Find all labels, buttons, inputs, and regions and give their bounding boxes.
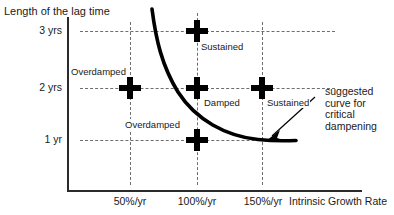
- x-axis-line: [67, 190, 362, 192]
- marker-sustained-2yr-150: [251, 77, 273, 99]
- x-tick-label-150: 150%/yr: [232, 195, 294, 207]
- marker-label-sustained-2yr-150: Sustained: [266, 97, 310, 108]
- gridline-v-50: [130, 22, 131, 185]
- curve-annotation-line-4: dampening: [325, 121, 377, 133]
- curve-annotation-line-3: critical: [325, 109, 377, 121]
- gridline-v-150: [262, 22, 263, 185]
- curve-annotation-line-1: suggested: [325, 86, 377, 98]
- marker-overdamped-2yr-50: [119, 77, 141, 99]
- y-tick-label-1yr: 1 yr: [44, 134, 62, 145]
- y-axis-title: Length of the lag time: [4, 5, 110, 17]
- marker-label-damped-2yr-100: Damped: [203, 97, 241, 108]
- marker-label-overdamped-1yr-100: Overdamped: [124, 119, 181, 130]
- x-tick-label-100: 100%/yr: [166, 195, 228, 207]
- y-axis-line: [67, 17, 69, 192]
- marker-sustained-3yr-100: [186, 20, 208, 42]
- curve-annotation: suggested curve for critical dampening: [325, 86, 377, 132]
- y-tick-label-2yrs: 2 yrs: [39, 82, 62, 93]
- marker-overdamped-1yr-100: [186, 129, 208, 151]
- x-tick-label-50: 50%/yr: [100, 195, 160, 207]
- marker-damped-2yr-100: [186, 77, 208, 99]
- marker-label-overdamped-2yr-50: Overdamped: [70, 66, 127, 77]
- y-tick-label-3yrs: 3 yrs: [39, 25, 62, 36]
- x-axis-title: Intrinsic Growth Rate: [289, 195, 387, 207]
- marker-label-sustained-3yr-100: Sustained: [200, 41, 244, 52]
- chart-figure: Length of the lag time 3 yrs 2 yrs 1 yr …: [0, 0, 394, 215]
